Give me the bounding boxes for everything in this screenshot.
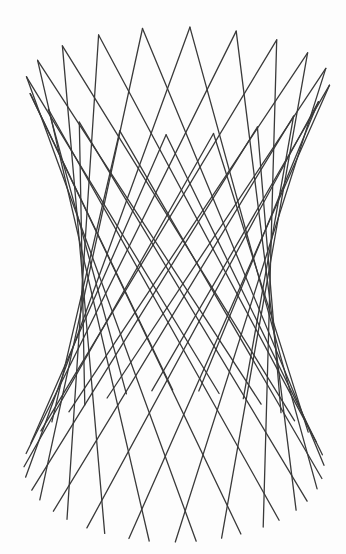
ruling-line (38, 60, 150, 541)
ruling-line (27, 77, 197, 541)
ruling-family-right-twist (26, 27, 330, 541)
ruling-line (143, 29, 325, 466)
ruling-line (41, 40, 277, 431)
scanned-page: Hyperboloid of one sheet (ruled surface) (0, 0, 346, 554)
hyperboloid-figure: Hyperboloid of one sheet (ruled surface) (0, 0, 346, 554)
ruling-line (257, 127, 281, 413)
ruling-line (214, 134, 309, 433)
ruling-line (26, 27, 190, 477)
ruling-line (40, 29, 143, 500)
ruling-line (30, 94, 241, 534)
ruling-line (152, 85, 330, 391)
ruling-line (99, 35, 317, 442)
ruling-line (26, 31, 236, 453)
